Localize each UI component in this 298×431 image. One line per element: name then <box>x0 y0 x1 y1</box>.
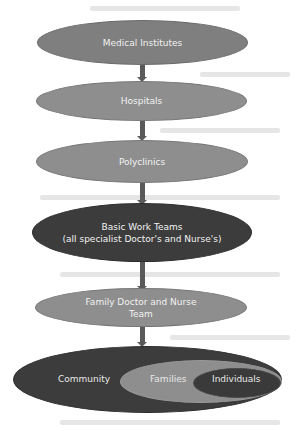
node-label: Hospitals <box>121 95 162 107</box>
label-community: Community <box>58 374 110 384</box>
label-individuals: Individuals <box>212 374 261 384</box>
node-hospitals: Hospitals <box>36 81 247 121</box>
node-label-line2: Team <box>129 308 153 320</box>
arrow-down-icon <box>140 326 145 343</box>
node-label-line2: (all specialist Doctor's and Nurse's) <box>63 233 222 245</box>
node-label: Polyclinics <box>119 156 165 168</box>
node-family-doctor-nurse-team: Family Doctor and Nurse Team <box>35 288 247 327</box>
arrow-down-icon <box>140 261 145 287</box>
arrow-down-icon <box>140 64 145 78</box>
arrow-down-icon <box>140 182 145 201</box>
node-label: Medical Institutes <box>103 37 182 49</box>
node-label-line1: Basic Work Teams <box>102 221 183 233</box>
node-medical-institutes: Medical Institutes <box>37 20 248 65</box>
arrow-down-icon <box>140 120 145 137</box>
label-families: Families <box>150 374 186 384</box>
node-polyclinics: Polyclinics <box>36 140 248 183</box>
node-label-line1: Family Doctor and Nurse <box>86 296 197 308</box>
node-basic-work-teams: Basic Work Teams (all specialist Doctor'… <box>32 203 252 262</box>
